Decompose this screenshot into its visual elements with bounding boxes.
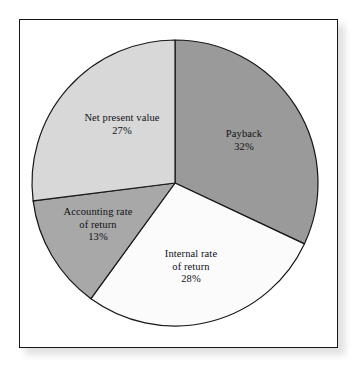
pie-label-internal-rate-of-return-name: Internal rate xyxy=(136,248,246,261)
pie-label-accounting-rate-of-return-value: 13% xyxy=(44,231,152,244)
pie-label-internal-rate-of-return: Internal rate of return 28% xyxy=(136,248,246,286)
pie-label-net-present-value: Net present value 27% xyxy=(58,112,186,137)
pie-label-payback-value: 32% xyxy=(196,141,292,154)
pie-label-internal-rate-of-return-name-2: of return xyxy=(136,261,246,274)
pie-label-internal-rate-of-return-value: 28% xyxy=(136,273,246,286)
pie-label-payback: Payback 32% xyxy=(196,128,292,153)
pie-label-accounting-rate-of-return-name: Accounting rate xyxy=(44,206,152,219)
pie-label-accounting-rate-of-return-name-2: of return xyxy=(44,219,152,232)
pie-chart-figure: Payback 32% Net present value 27% Accoun… xyxy=(0,0,356,366)
pie-label-net-present-value-value: 27% xyxy=(58,125,186,138)
pie-chart-graphic xyxy=(0,0,356,366)
pie-label-payback-name: Payback xyxy=(196,128,292,141)
pie-label-net-present-value-name: Net present value xyxy=(58,112,186,125)
pie-label-accounting-rate-of-return: Accounting rate of return 13% xyxy=(44,206,152,244)
